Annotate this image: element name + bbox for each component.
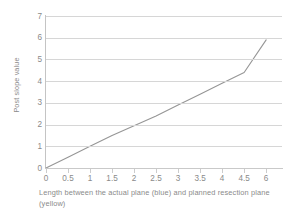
x-axis-tick	[178, 169, 179, 173]
gridline-y	[46, 125, 282, 126]
x-axis-tick-label: 2.5	[144, 174, 168, 184]
x-axis-tick	[68, 169, 69, 173]
gridline-y	[46, 38, 282, 39]
plot-area	[46, 16, 282, 168]
x-axis-tick-labels: 00.511.522.533.544.56	[46, 174, 282, 185]
x-axis-tick	[266, 169, 267, 173]
x-axis-title-line2: (yellow)	[39, 199, 65, 208]
y-axis-tick-labels: 01234567	[26, 11, 42, 169]
line-chart: Post slope value 01234567 00.511.522.533…	[0, 0, 305, 221]
gridline-y	[46, 59, 282, 60]
x-axis-tick	[156, 169, 157, 173]
x-axis-tick-label: 1.5	[100, 174, 124, 184]
x-axis-tick	[244, 169, 245, 173]
y-axis-tick-label: 7	[26, 12, 42, 21]
y-axis-tick-label: 4	[26, 77, 42, 86]
x-axis-tick	[200, 169, 201, 173]
y-axis-tick-label: 1	[26, 142, 42, 151]
x-axis-title-line1: Length between the actual plane (blue) a…	[39, 188, 270, 197]
gridline-y	[46, 103, 282, 104]
x-axis-tick-label: 6	[254, 174, 278, 184]
y-axis-tick-label: 0	[26, 164, 42, 173]
y-axis-tick-label: 6	[26, 33, 42, 42]
x-axis-tick-label: 2	[122, 174, 146, 184]
x-axis-title: Length between the actual plane (blue) a…	[39, 188, 279, 209]
x-axis-tick-label: 3	[166, 174, 190, 184]
x-axis-ticks	[46, 169, 282, 173]
x-axis-tick-label: 4	[210, 174, 234, 184]
gridline-y	[46, 16, 282, 17]
x-axis-tick-label: 0	[34, 174, 58, 184]
y-axis-title: Post slope value	[12, 35, 26, 135]
y-axis-tick-label: 5	[26, 55, 42, 64]
x-axis-tick-label: 3.5	[188, 174, 212, 184]
y-axis-tick-label: 3	[26, 98, 42, 107]
x-axis-tick	[46, 169, 47, 173]
x-axis-tick	[112, 169, 113, 173]
gridline-y	[46, 81, 282, 82]
gridline-y	[46, 146, 282, 147]
series-line-post-slope	[46, 16, 282, 168]
y-axis-tick-label: 2	[26, 120, 42, 129]
x-axis-tick	[90, 169, 91, 173]
x-axis-tick-label: 1	[78, 174, 102, 184]
x-axis-tick	[134, 169, 135, 173]
x-axis-tick-label: 0.5	[56, 174, 80, 184]
x-axis-tick-label: 4.5	[232, 174, 256, 184]
x-axis-tick	[222, 169, 223, 173]
